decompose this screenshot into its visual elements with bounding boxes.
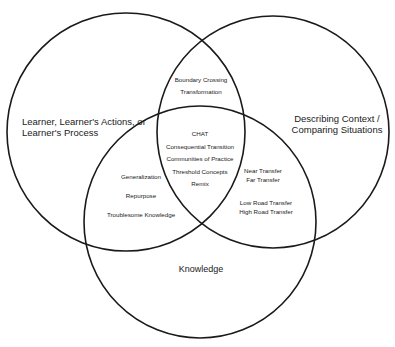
item-repurpose: Repurpose: [107, 186, 175, 205]
label-context-line2: Comparing Situations: [292, 124, 383, 135]
label-context: Describing Context / Comparing Situation…: [292, 113, 383, 135]
region-context-knowledge-1: Near Transfer Far Transfer: [244, 166, 282, 184]
item-high-road-transfer: High Road Transfer: [239, 207, 293, 216]
label-learner: Learner, Learner's Actions, or Learner's…: [22, 116, 146, 138]
label-learner-line1: Learner, Learner's Actions, or: [22, 116, 146, 127]
item-near-transfer: Near Transfer: [244, 166, 282, 175]
label-knowledge-line1: Knowledge: [179, 264, 224, 275]
region-center: CHAT Consequential Transition Communitie…: [166, 128, 234, 191]
item-communities-of-practice: Communities of Practice: [166, 153, 234, 166]
label-knowledge: Knowledge: [179, 264, 224, 275]
item-threshold-concepts: Threshold Concepts: [166, 166, 234, 179]
item-boundary-crossing: Boundary Crossing: [175, 74, 228, 86]
region-learner-context: Boundary Crossing Transformation: [175, 74, 228, 98]
item-remix: Remix: [166, 178, 234, 191]
item-far-transfer: Far Transfer: [244, 175, 282, 184]
item-low-road-transfer: Low Road Transfer: [239, 198, 293, 207]
item-troublesome-knowledge: Troublesome Knowledge: [107, 205, 175, 224]
item-transformation: Transformation: [175, 86, 228, 98]
label-context-line1: Describing Context /: [292, 113, 383, 124]
item-generalization: Generalization: [107, 167, 175, 186]
region-context-knowledge-2: Low Road Transfer High Road Transfer: [239, 198, 293, 216]
item-consequential-transition: Consequential Transition: [166, 141, 234, 154]
label-learner-line2: Learner's Process: [22, 127, 146, 138]
item-chat: CHAT: [166, 128, 234, 141]
region-learner-knowledge: Generalization Repurpose Troublesome Kno…: [107, 167, 175, 224]
